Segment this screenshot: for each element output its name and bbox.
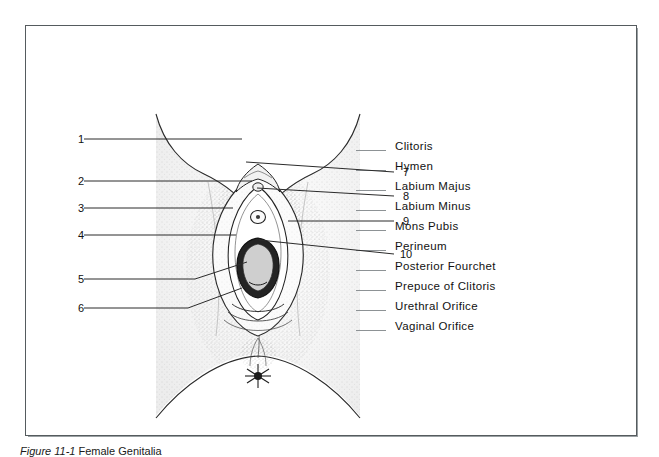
figure-caption: Figure 11-1 Female Genitalia — [20, 445, 162, 457]
legend-item-label: Vaginal Orifice — [395, 320, 474, 332]
legend-answer-blank[interactable] — [356, 161, 386, 171]
callout-number-1: 1 — [70, 134, 84, 145]
legend-item[interactable]: Mons Pubis — [356, 216, 531, 236]
legend-answer-blank[interactable] — [356, 261, 386, 271]
figure-border: Clitoris Hymen Labium Majus Labium Minus… — [25, 25, 637, 436]
legend-item[interactable]: Vaginal Orifice — [356, 316, 531, 336]
callout-number-4: 4 — [70, 230, 84, 241]
legend-answer-blank[interactable] — [356, 141, 386, 151]
anatomy-illustration-svg — [146, 86, 371, 436]
legend-item-label: Urethral Orifice — [395, 300, 478, 312]
legend-answer-blank[interactable] — [356, 181, 386, 191]
anatomy-illustration — [146, 86, 371, 436]
callout-number-7: 7 — [403, 167, 421, 178]
legend-item-label: Posterior Fourchet — [395, 260, 496, 272]
callout-number-10: 10 — [400, 249, 418, 260]
legend-answer-blank[interactable] — [356, 281, 386, 291]
urethral-meatus-dot — [256, 215, 260, 219]
legend-list: Clitoris Hymen Labium Majus Labium Minus… — [356, 136, 531, 336]
legend-item[interactable]: Labium Majus — [356, 176, 531, 196]
clitoris-glans — [253, 183, 263, 191]
callout-number-9: 9 — [403, 216, 421, 227]
legend-answer-blank[interactable] — [356, 321, 386, 331]
callout-number-8: 8 — [403, 191, 421, 202]
legend-item[interactable]: Prepuce of Clitoris — [356, 276, 531, 296]
legend-item[interactable]: Labium Minus — [356, 196, 531, 216]
caption-title: Female Genitalia — [79, 445, 162, 457]
legend-item[interactable]: Hymen — [356, 156, 531, 176]
callout-number-3: 3 — [70, 203, 84, 214]
legend-answer-blank[interactable] — [356, 221, 386, 231]
callout-number-2: 2 — [70, 176, 84, 187]
legend-item-label: Clitoris — [395, 140, 433, 152]
legend-item[interactable]: Perineum — [356, 236, 531, 256]
legend-item[interactable]: Clitoris — [356, 136, 531, 156]
legend-answer-blank[interactable] — [356, 241, 386, 251]
callout-number-6: 6 — [70, 303, 84, 314]
callout-number-5: 5 — [70, 274, 84, 285]
legend-answer-blank[interactable] — [356, 201, 386, 211]
legend-item[interactable]: Urethral Orifice — [356, 296, 531, 316]
caption-figure-number: Figure 11-1 — [20, 445, 75, 457]
legend-item-label: Prepuce of Clitoris — [395, 280, 496, 292]
legend-item[interactable]: Posterior Fourchet — [356, 256, 531, 276]
legend-answer-blank[interactable] — [356, 301, 386, 311]
